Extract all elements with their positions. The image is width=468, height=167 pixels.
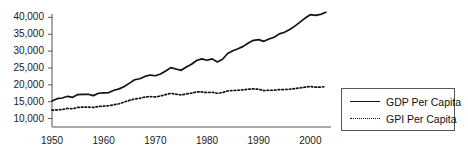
y-axis-tick-label: 10,000 [0, 114, 44, 124]
x-axis-tick-label: 1950 [27, 136, 77, 146]
chart-container: 10,00015,00020,00025,00030,00035,00040,0… [0, 0, 468, 167]
x-axis-tick-label: 1990 [234, 136, 284, 146]
chart-legend: GDP Per Capita GPI Per Capita [341, 88, 455, 131]
x-axis-tick-label: 1960 [79, 136, 129, 146]
legend-swatch-dotted-line-icon [350, 114, 380, 124]
y-axis-tick-label: 35,000 [0, 29, 44, 39]
x-axis-tick-label: 2000 [285, 136, 335, 146]
y-axis-tick-label: 30,000 [0, 46, 44, 56]
y-axis-ticks [48, 17, 52, 118]
y-axis-tick-label: 25,000 [0, 63, 44, 73]
legend-swatch-solid-line-icon [350, 97, 380, 107]
series-line-gpi-per-capita [52, 87, 326, 111]
x-axis-tick-label: 1980 [182, 136, 232, 146]
legend-item-gpi-per-capita: GPI Per Capita [342, 112, 456, 126]
series-line-gdp-per-capita [52, 12, 326, 101]
y-axis-tick-label: 40,000 [0, 12, 44, 22]
y-axis-tick-label: 15,000 [0, 97, 44, 107]
legend-label-gpi-per-capita: GPI Per Capita [386, 113, 457, 125]
legend-label-gdp-per-capita: GDP Per Capita [386, 96, 461, 108]
x-axis-tick-label: 1970 [130, 136, 180, 146]
legend-item-gdp-per-capita: GDP Per Capita [342, 95, 456, 109]
y-axis-tick-label: 20,000 [0, 80, 44, 90]
